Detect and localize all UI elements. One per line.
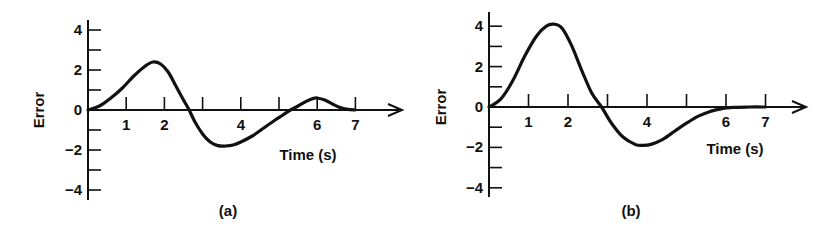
y-tick-label: −2 xyxy=(466,138,483,155)
y-tick-label: 2 xyxy=(74,61,82,78)
x-tick-label: 1 xyxy=(524,113,532,130)
x-axis-label: Time (s) xyxy=(279,146,336,163)
panel-caption: (b) xyxy=(621,202,640,219)
y-tick-label: 0 xyxy=(475,98,483,115)
y-axis-label: Error xyxy=(30,92,47,129)
y-axis-label: Error xyxy=(432,89,449,126)
x-tick-label: 1 xyxy=(122,116,130,133)
chart-panel-b: 42−2−4012467ErrorTime (s)(b) xyxy=(432,12,806,219)
figure-error-vs-time: 42−2−4012467ErrorTime (s)(a) 42−2−401246… xyxy=(0,0,836,234)
y-tick-label: 0 xyxy=(74,101,82,118)
x-tick-label: 2 xyxy=(160,116,168,133)
x-tick-label: 7 xyxy=(351,116,359,133)
x-tick-label: 7 xyxy=(761,113,769,130)
x-tick-label: 6 xyxy=(722,113,730,130)
y-tick-label: −4 xyxy=(65,181,83,198)
chart-panel-a: 42−2−4012467ErrorTime (s)(a) xyxy=(30,20,402,219)
x-tick-label: 4 xyxy=(237,116,246,133)
x-axis-label: Time (s) xyxy=(706,140,763,157)
panel-caption: (a) xyxy=(219,202,237,219)
y-tick-label: −4 xyxy=(466,179,484,196)
x-tick-label: 4 xyxy=(643,113,652,130)
x-tick-label: 6 xyxy=(313,116,321,133)
error-curve xyxy=(88,62,355,146)
y-tick-label: 2 xyxy=(475,58,483,75)
y-tick-label: −2 xyxy=(65,141,82,158)
x-tick-label: 2 xyxy=(564,113,572,130)
y-tick-label: 4 xyxy=(475,17,484,34)
y-tick-label: 4 xyxy=(74,21,83,38)
